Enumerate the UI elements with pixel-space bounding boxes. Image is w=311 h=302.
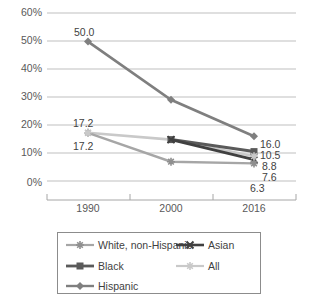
plot-area: 60% 50% 40% 30% 20% 10% 0% 1990 2000 201… [0,0,311,222]
data-label-white-1990: 17.2 [73,141,93,152]
legend-label-asian: Asian [204,239,234,251]
chart-legend: White, non-Hispanic Asian [57,232,261,294]
x-tick-2016: 2016 [224,202,284,214]
legend-item-all[interactable]: All [176,258,220,274]
legend-marker-asterisk-icon [66,239,94,251]
legend-marker-x-icon [176,239,204,251]
legend-marker-square-icon [66,260,94,272]
legend-item-asian[interactable]: Asian [176,237,234,253]
legend-label-all: All [204,260,220,272]
series-line-black [168,136,258,155]
x-tick-2000: 2000 [141,202,201,214]
legend-label-hispanic: Hispanic [94,280,138,292]
y-tick-50: 50% [0,35,42,46]
x-tick-1990: 1990 [58,202,118,214]
data-label-hispanic-1990: 50.0 [74,27,94,38]
y-tick-40: 40% [0,63,42,74]
legend-item-white-non-hispanic[interactable]: White, non-Hispanic [66,237,192,253]
data-label-white-2016: 6.3 [250,183,265,194]
legend-marker-diamond-icon [66,280,94,292]
line-chart: 60% 50% 40% 30% 20% 10% 0% 1990 2000 201… [0,0,311,302]
legend-marker-asterisk-light-icon [176,260,204,272]
legend-item-black[interactable]: Black [66,258,124,274]
y-tick-10: 10% [0,147,42,158]
y-tick-30: 30% [0,91,42,102]
legend-label-black: Black [94,260,124,272]
y-tick-20: 20% [0,119,42,130]
x-axis [47,194,296,200]
legend-item-hispanic[interactable]: Hispanic [66,278,138,294]
y-tick-0: 0% [0,177,42,188]
y-tick-60: 60% [0,7,42,18]
data-label-all-1990: 17.2 [73,118,93,129]
